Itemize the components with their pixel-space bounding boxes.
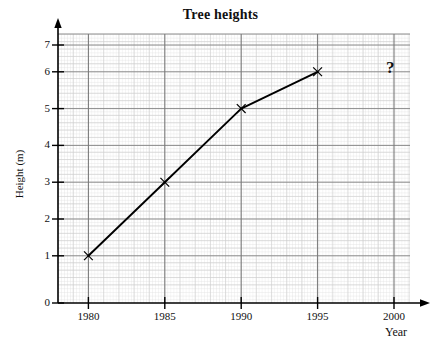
y-tick-label-3: 3 (28, 175, 50, 187)
y-tick-label-1: 1 (28, 249, 50, 261)
tree-heights-chart: Tree heights Height (m) Year (0, 0, 441, 347)
x-tick-label-2000: 2000 (369, 310, 419, 322)
y-tick-label-6: 6 (28, 65, 50, 77)
y-tick-label-4: 4 (28, 138, 50, 150)
x-tick-label-1990: 1990 (216, 310, 266, 322)
x-tick-label-1995: 1995 (293, 310, 343, 322)
x-tick-label-1985: 1985 (140, 310, 190, 322)
chart-canvas (0, 0, 441, 347)
y-tick-label-2: 2 (28, 212, 50, 224)
question-mark-annotation: ? (386, 59, 395, 76)
x-tick-label-1980: 1980 (63, 310, 113, 322)
y-tick-label-7: 7 (28, 38, 50, 50)
y-tick-label-5: 5 (28, 102, 50, 114)
y-tick-label-0: 0 (28, 296, 50, 308)
